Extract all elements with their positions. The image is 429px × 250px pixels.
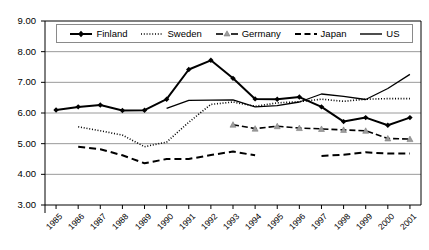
legend-marker-japan bbox=[294, 29, 318, 39]
series-line bbox=[78, 147, 255, 164]
legend-item-us[interactable]: US bbox=[359, 29, 399, 39]
series-us bbox=[167, 74, 410, 108]
legend-marker-germany bbox=[215, 29, 239, 39]
legend-swatch-icon bbox=[215, 29, 239, 39]
legend-swatch-icon bbox=[69, 29, 93, 39]
series-line bbox=[322, 152, 410, 156]
legend-item-sweden[interactable]: Sweden bbox=[140, 29, 201, 39]
legend-item-germany[interactable]: Germany bbox=[215, 29, 281, 39]
data-point-marker bbox=[53, 107, 58, 112]
legend-swatch-icon bbox=[359, 29, 383, 39]
data-point-marker bbox=[75, 104, 80, 109]
legend-item-japan[interactable]: Japan bbox=[294, 29, 347, 39]
line-chart: 9.008.007.006.005.004.003.00 19851986198… bbox=[0, 0, 429, 250]
legend-label: US bbox=[386, 29, 399, 39]
data-point-marker bbox=[363, 115, 368, 120]
series-sweden bbox=[78, 99, 410, 147]
data-point-marker bbox=[98, 102, 103, 107]
data-point-marker bbox=[385, 123, 390, 128]
data-point-marker bbox=[275, 97, 280, 102]
legend-swatch-icon bbox=[294, 29, 318, 39]
series-line bbox=[167, 74, 410, 108]
series-line bbox=[56, 60, 410, 125]
data-point-marker bbox=[120, 108, 125, 113]
series-line bbox=[78, 99, 410, 147]
legend-swatch-icon bbox=[140, 29, 164, 39]
legend-marker-us bbox=[359, 29, 383, 39]
legend-label: Finland bbox=[96, 29, 127, 39]
series-finland bbox=[53, 58, 412, 128]
chart-legend: Finland Sweden Germany Japan US bbox=[56, 24, 413, 43]
legend-marker-sweden bbox=[140, 29, 164, 39]
legend-item-finland[interactable]: Finland bbox=[69, 29, 127, 39]
legend-label: Sweden bbox=[167, 29, 201, 39]
legend-marker-finland bbox=[69, 29, 93, 39]
data-point-marker bbox=[407, 115, 412, 120]
series-japan bbox=[78, 147, 410, 164]
legend-label: Japan bbox=[321, 29, 347, 39]
legend-label: Germany bbox=[242, 29, 281, 39]
